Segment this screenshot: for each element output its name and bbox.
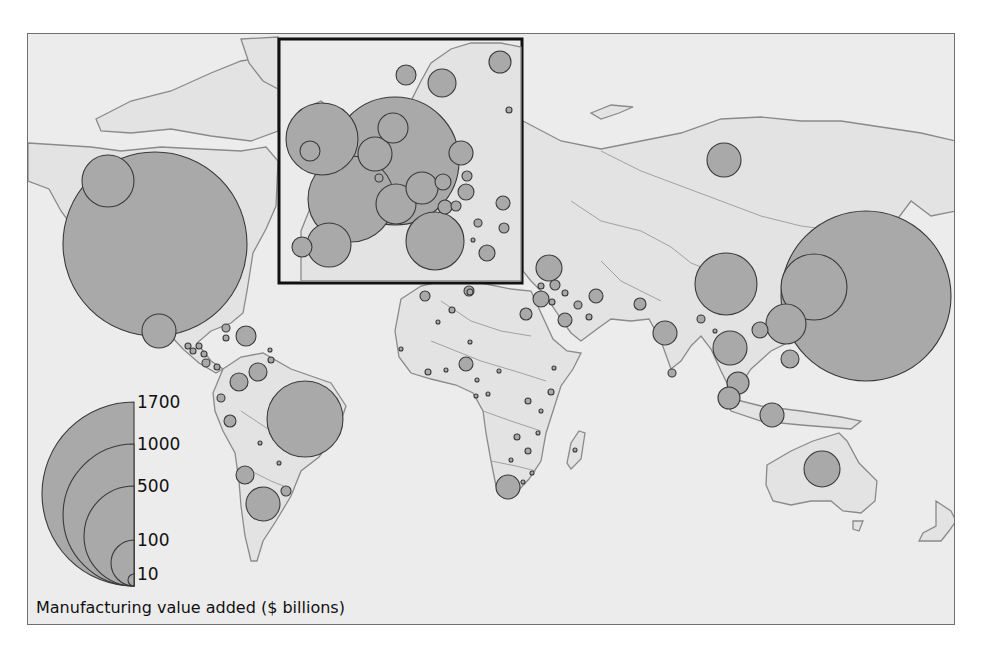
bubble-costa-rica: Costa Rica [202,359,210,367]
bubble-italy: Italy [406,212,464,270]
bubble-el-salvador: El Salvador [190,348,196,354]
bubble-philippines: Philippines [781,350,799,368]
bubble-bolivia: Bolivia [258,441,262,445]
bubble-kenya: Kenya [548,389,554,395]
bubble-lithuania: Lithuania [506,107,512,113]
bubble-russia: Russia [707,143,741,177]
bubble-guatemala: Guatemala [185,343,191,349]
bubble-slovenia: Slovenia [438,200,452,214]
bubble-austria: Austria [406,172,438,204]
bubble-thailand: Thailand [713,331,747,365]
bubble-malawi: Malawi [536,431,540,435]
bubble-uae: UAE [586,314,592,320]
bubble-libya: Libya [449,307,455,313]
bubble-chad: Chad [497,369,501,373]
legend-caption: Manufacturing value added ($ billions) [36,598,345,617]
bubble-vietnam: Vietnam [752,322,768,338]
bubble-ivory-coast: Ivory Coast [425,369,431,375]
legend-circles [42,402,134,586]
bubble-slovakia: Slovakia [462,171,472,181]
bubble-united-kingdom: United Kingdom [286,103,358,175]
bubble-ecuador: Ecuador [217,394,225,402]
bubble-guyana-suriname: Guyana/Suriname [268,357,274,363]
bubble-nigeria: Nigeria [459,357,473,371]
bubble-spain: Spain [307,223,351,267]
bubble-czech-rep-: Czech Rep. [435,174,451,190]
bubble-romania: Romania [496,196,510,210]
bubble-syria: Syria [550,280,560,290]
bubble-south-africa: South Africa [496,475,520,499]
bubble-bangladesh: Bangladesh [697,315,705,323]
bubble-congo: Congo [486,392,490,396]
bubble-poland: Poland [449,141,473,165]
legend-labels: 1700100050010010 [137,392,180,584]
bubble-paraguay: Paraguay [277,461,281,465]
bubble-zimbabwe: Zimbabwe [525,448,531,454]
landmass-novaya-zemlya [591,105,633,119]
bubble-portugal: Portugal [292,237,312,257]
bubble-mali: Mali [436,320,440,324]
bubble-iran: Iran [589,289,603,303]
bubble-macedonia: Macedonia [471,238,475,242]
bubble-greece: Greece [479,245,495,261]
bubble-egypt: Egypt [520,308,532,320]
legend-label-1000: 1000 [137,434,180,454]
bubble-honduras: Honduras [196,343,202,349]
bubble-ghana: Ghana [444,368,448,372]
bubble-mozambique: Mozambique [530,471,534,475]
bubble-kuwait: Kuwait [574,301,582,309]
legend-label-10: 10 [137,564,159,584]
landmass-arctic-canada [96,57,278,141]
bubble-morocco: Morocco [420,291,430,301]
bubble-saudi-arabia: Saudi Arabia [558,313,572,327]
bubble-singapore: Singapore [718,387,740,409]
bubble-hungary: Hungary [458,184,474,200]
bubble-australia: Australia [804,451,840,487]
bubble-mexico: Mexico [142,314,176,348]
bubble-luxembourg: Luxembourg [375,174,383,182]
bubble-venezuela: Venezuela [249,363,267,381]
legend-label-500: 500 [137,476,169,496]
bubble-niger: Niger [468,340,472,344]
landmass-africa [395,279,581,497]
bubble-serbia: Serbia [474,219,482,227]
bubble-brazil: Brazil [267,381,343,457]
bubble-ireland: Ireland [300,141,320,161]
legend-label-1700: 1700 [137,392,180,412]
bubble-gabon: Gabon [474,394,478,398]
bubble-cuba-caribbean: Cuba/Caribbean [222,324,230,332]
bubble-trinidad: Trinidad [268,348,272,352]
bubble-sweden: Sweden [428,69,456,97]
bubble-china: China [695,253,757,315]
bubble-dominican-rep-: Dominican Rep. [236,326,256,346]
landmass-indonesia [721,396,861,429]
landmass-new-zealand [919,501,955,541]
bubble-argentina: Argentina [246,487,280,521]
bubble-ethiopia: Ethiopia [552,366,556,370]
bubble-sri-lanka: Sri Lanka [668,369,676,377]
bubble-denmark: Denmark [396,65,416,85]
bubble-cameroon: Cameroon [475,378,479,382]
bubble-finland: Finland [489,51,511,73]
bubble-chile: Chile [236,466,254,484]
bubble-madagascar: Madagascar [573,448,577,452]
bubble-botswana: Botswana [509,458,513,462]
bubble-netherlands: Netherlands [378,113,408,143]
bubble-israel: Israel [533,291,549,307]
world-map: United StatesJapanGermanyFranceBrazilUni… [28,34,955,625]
bubble-jordan: Jordan [549,299,555,305]
bubble-caribbean-small: Caribbean small [223,335,229,341]
bubble-panama: Panama [214,364,220,370]
bubble-croatia: Croatia [451,201,461,211]
bubble-zambia: Zambia [514,434,520,440]
bubble-uruguay: Uruguay [281,486,291,496]
bubble-tunisia: Tunisia [467,289,473,295]
bubble-burma: Burma [713,329,717,333]
bubble-turkey: Turkey [536,255,562,281]
bubble-uganda: Uganda [525,398,531,404]
bubble-peru: Peru [224,415,236,427]
bubble-pakistan: Pakistan [634,298,646,310]
bubble-canada-west-: Canada (west) [82,155,134,207]
bubble-swaziland: Swaziland [521,480,525,484]
bubble-india: India [653,321,677,345]
